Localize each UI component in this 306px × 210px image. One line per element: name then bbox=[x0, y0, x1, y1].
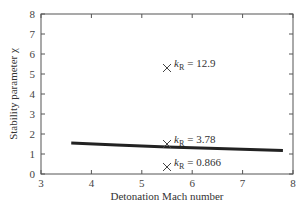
x-tick-label: 5 bbox=[139, 177, 145, 189]
x-axis-label: Detonation Mach number bbox=[110, 190, 223, 202]
x-tick-label: 6 bbox=[189, 177, 195, 189]
x-tick-label: 8 bbox=[290, 177, 296, 189]
data-point-marker bbox=[163, 64, 171, 72]
y-axis: 012345678 bbox=[30, 8, 294, 180]
kr-annotation: kR= 0.866 bbox=[174, 156, 221, 171]
y-tick-label: 2 bbox=[30, 128, 36, 140]
plot-area: kR= 12.9kR= 3.78kR= 0.866 bbox=[71, 57, 283, 171]
y-tick-label: 5 bbox=[30, 68, 36, 80]
y-axis-label: Stability parameter χ bbox=[7, 48, 19, 140]
y-tick-label: 8 bbox=[30, 8, 36, 20]
y-tick-label: 0 bbox=[30, 168, 36, 180]
data-point-marker bbox=[163, 163, 171, 171]
x-tick-label: 7 bbox=[240, 177, 246, 189]
chart: 345678 012345678 kR= 12.9kR= 3.78kR= 0.8… bbox=[0, 0, 306, 210]
y-tick-label: 6 bbox=[30, 48, 36, 60]
y-tick-label: 1 bbox=[30, 148, 36, 160]
x-tick-label: 4 bbox=[89, 177, 95, 189]
y-tick-label: 7 bbox=[30, 28, 36, 40]
x-tick-label: 3 bbox=[38, 177, 44, 189]
y-tick-label: 3 bbox=[30, 108, 36, 120]
x-axis: 345678 bbox=[38, 14, 296, 189]
kr-annotation: kR= 3.78 bbox=[174, 133, 216, 148]
kr-annotation: kR= 12.9 bbox=[174, 57, 216, 72]
y-tick-label: 4 bbox=[30, 88, 36, 100]
